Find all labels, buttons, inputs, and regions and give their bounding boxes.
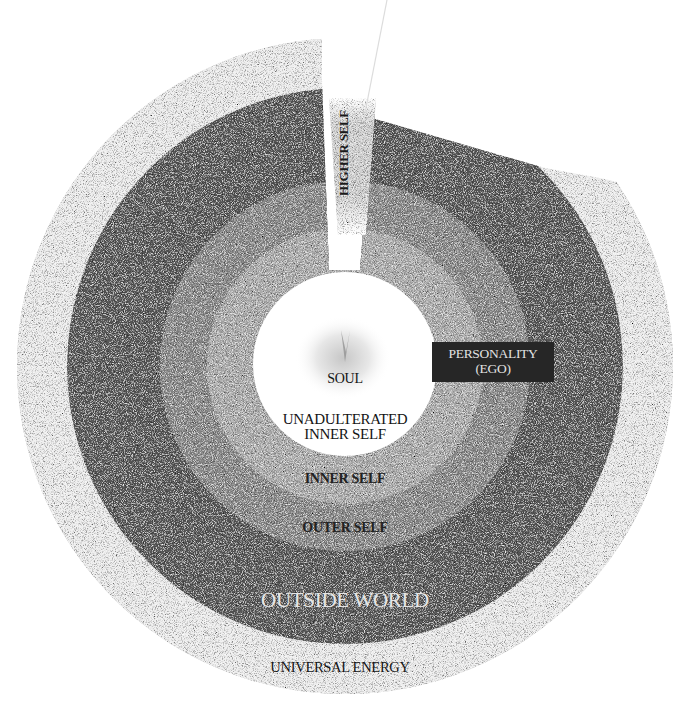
self-layers-diagram bbox=[0, 0, 674, 721]
label-higher-self: HIGHER SELF bbox=[337, 110, 350, 196]
label-outer-self: OUTER SELF bbox=[285, 521, 405, 535]
label-outside-world: OUTSIDE WORLD bbox=[230, 590, 460, 611]
label-inner-self: INNER SELF bbox=[285, 472, 405, 486]
soul-glow bbox=[295, 316, 391, 400]
label-unadulterated-line1: UNADULTERATED bbox=[255, 412, 435, 427]
label-unadulterated-inner-self: UNADULTERATED INNER SELF bbox=[255, 412, 435, 442]
label-soul: SOUL bbox=[305, 372, 385, 386]
label-personality-line2: (EGO) bbox=[432, 361, 554, 376]
label-personality-line1: PERSONALITY bbox=[432, 346, 554, 361]
label-personality-ego: PERSONALITY (EGO) bbox=[432, 346, 554, 376]
label-unadulterated-line2: INNER SELF bbox=[255, 427, 435, 442]
label-universal-energy: UNIVERSAL ENERGY bbox=[220, 660, 460, 675]
